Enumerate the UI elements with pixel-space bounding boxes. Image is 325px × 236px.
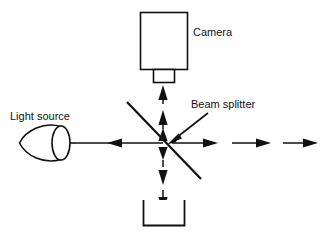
- beam-splitter-label: Beam splitter: [191, 98, 256, 110]
- light-source-label: Light source: [10, 110, 70, 122]
- beam-splitter-annotation: [168, 113, 208, 144]
- out-beam-seg2-arrowhead: [256, 138, 271, 147]
- up-beam-seg1-arrowhead: [158, 85, 167, 100]
- camera-component: [141, 13, 188, 83]
- light-source-component: [20, 125, 77, 161]
- camera-label: Camera: [193, 26, 233, 38]
- beam-splitter-outgoing-right: [172, 138, 318, 147]
- down-beam-seg1-arrowhead: [158, 147, 167, 160]
- up-beam-seg2-arrowhead: [158, 110, 167, 125]
- figure-canvas: Camera Light source: [0, 0, 325, 236]
- camera-body: [141, 13, 188, 70]
- beam-source-to-splitter: [76, 138, 163, 147]
- down-beam-seg2-arrowhead: [158, 170, 167, 185]
- up-beam-seg3-arrowhead: [158, 128, 167, 141]
- detector-well: [144, 200, 185, 226]
- out-beam-seg3-arrowhead: [303, 138, 318, 147]
- out-beam-seg1-arrowhead: [203, 138, 218, 147]
- optical-schematic-diagram: Camera Light source: [0, 0, 325, 236]
- beam-arrowhead-left: [107, 138, 122, 147]
- beam-splitter-pointer-line: [176, 113, 208, 138]
- camera-lens: [154, 70, 175, 83]
- light-source-face: [52, 126, 70, 160]
- beam-splitter-to-camera: [158, 85, 167, 141]
